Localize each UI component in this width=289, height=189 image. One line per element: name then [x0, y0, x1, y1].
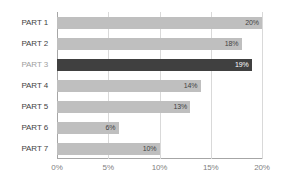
bar-rows: 20%18%19%14%13%6%10% [57, 12, 262, 159]
x-tick-label: 0% [51, 163, 62, 172]
bar-value-label: 13% [174, 103, 191, 110]
bar-value-label: 19% [235, 61, 252, 68]
bar-row: 18% [57, 33, 262, 54]
category-label: PART 6 [0, 117, 53, 138]
bar: 10% [57, 143, 160, 155]
bar-row: 19% [57, 54, 262, 75]
category-label: PART 3 [0, 54, 53, 75]
bar-row: 10% [57, 138, 262, 159]
plot-area: 20%18%19%14%13%6%10% [57, 12, 262, 159]
bar: 14% [57, 80, 201, 92]
x-tick-label: 10% [152, 163, 168, 172]
bar-value-label: 18% [225, 40, 242, 47]
category-label: PART 4 [0, 75, 53, 96]
bar-row: 13% [57, 96, 262, 117]
bar-value-label: 6% [106, 124, 119, 131]
x-tick-label: 15% [203, 163, 219, 172]
category-label: PART 5 [0, 96, 53, 117]
x-tick-label: 5% [103, 163, 114, 172]
bar-value-label: 14% [184, 82, 201, 89]
x-tick-label: 20% [254, 163, 270, 172]
bar-value-label: 20% [245, 19, 262, 26]
category-label: PART 2 [0, 33, 53, 54]
bar-chart: PART 1PART 2PART 3PART 4PART 5PART 6PART… [0, 0, 289, 189]
gridline [262, 12, 263, 159]
bar-row: 14% [57, 75, 262, 96]
category-label: PART 1 [0, 12, 53, 33]
category-axis-labels: PART 1PART 2PART 3PART 4PART 5PART 6PART… [0, 12, 53, 159]
bar-value-label: 10% [143, 145, 160, 152]
bar: 6% [57, 122, 119, 134]
bar: 20% [57, 17, 262, 29]
category-label: PART 7 [0, 138, 53, 159]
bar-row: 20% [57, 12, 262, 33]
x-axis-tick-labels: 0%5%10%15%20% [57, 163, 262, 177]
bar: 18% [57, 38, 242, 50]
bar-row: 6% [57, 117, 262, 138]
bar-highlighted: 19% [57, 59, 252, 71]
bar: 13% [57, 101, 190, 113]
